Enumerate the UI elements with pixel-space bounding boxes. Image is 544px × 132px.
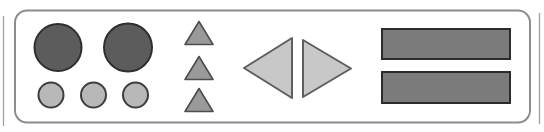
small-light-circle-2 (81, 83, 106, 108)
small-light-circle-3 (123, 83, 148, 108)
small-light-circle-1 (39, 83, 64, 108)
shapes-canvas (0, 0, 544, 132)
gray-bar-2 (382, 72, 510, 103)
large-dark-circle-1 (35, 24, 82, 71)
shape-panel-figure (0, 0, 544, 132)
large-dark-circle-2 (104, 24, 152, 72)
gray-bar-1 (382, 29, 510, 59)
